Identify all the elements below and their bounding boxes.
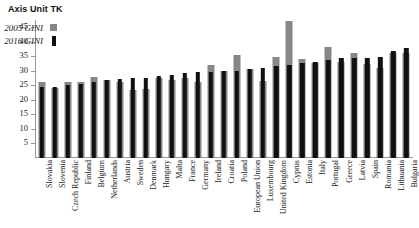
bar-2016 xyxy=(157,76,161,158)
bar-2016 xyxy=(131,78,135,158)
bar-group xyxy=(178,20,191,158)
x-axis-label: Croatia xyxy=(227,160,236,184)
bar-group xyxy=(204,20,217,158)
x-axis-label: Slovakia xyxy=(45,160,54,188)
x-axis-label: Latvia xyxy=(358,160,367,180)
x-axis-label: Sweden xyxy=(136,160,145,185)
bar-2016 xyxy=(196,72,200,158)
x-axis-label: European Union xyxy=(253,160,262,213)
bar-group xyxy=(387,20,400,158)
y-tick-label: 15 xyxy=(20,108,29,118)
bar-group xyxy=(74,20,87,158)
bar-2016 xyxy=(300,63,304,158)
x-axis-label: Hungary xyxy=(162,160,171,188)
bar-2016 xyxy=(65,85,69,158)
bar-group xyxy=(126,20,139,158)
bar-2016 xyxy=(209,72,213,158)
bar-2016 xyxy=(391,51,395,158)
x-axis-label: Ireland xyxy=(214,160,223,183)
bar-group xyxy=(113,20,126,158)
bar-2016 xyxy=(183,73,187,158)
bar-group xyxy=(244,20,257,158)
x-axis-label: Austria xyxy=(123,160,132,184)
bar-2016 xyxy=(326,60,330,158)
bar-2016 xyxy=(248,69,252,158)
bar-group xyxy=(309,20,322,158)
bar-group xyxy=(322,20,335,158)
bar-2016 xyxy=(118,79,122,158)
x-axis-label: Czech Republic xyxy=(71,160,80,211)
bar-group xyxy=(283,20,296,158)
x-axis-label: Italy xyxy=(318,160,327,175)
bar-group xyxy=(61,20,74,158)
bar-group xyxy=(400,20,413,158)
y-tick-label: 35 xyxy=(20,50,29,60)
y-tick-label: 5 xyxy=(24,137,28,147)
bar-group xyxy=(348,20,361,158)
plot-area xyxy=(35,20,413,158)
bar-group xyxy=(152,20,165,158)
bar-group xyxy=(191,20,204,158)
bar-group xyxy=(270,20,283,158)
chart-title: Axis Unit TK xyxy=(8,4,63,14)
x-axis-label: Denmark xyxy=(149,160,158,190)
bar-2016 xyxy=(144,78,148,158)
bar-group xyxy=(257,20,270,158)
x-axis-label: Germany xyxy=(201,160,210,190)
legend-swatch-2005-icon xyxy=(50,24,57,31)
bar-2016 xyxy=(378,57,382,158)
x-axis-label: Luxembourg xyxy=(266,160,275,201)
y-tick-label: 30 xyxy=(20,65,29,75)
y-tick-label: 25 xyxy=(20,79,29,89)
bar-group xyxy=(361,20,374,158)
bar-group xyxy=(217,20,230,158)
x-axis-label: Malta xyxy=(175,160,184,179)
y-tick-label: 10 xyxy=(20,123,29,133)
legend-swatch-2016-icon xyxy=(52,36,57,46)
bar-2016 xyxy=(261,68,265,158)
bar-2016 xyxy=(91,82,95,158)
x-axis-label: Poland xyxy=(240,160,249,182)
bar-group xyxy=(100,20,113,158)
bar-2016 xyxy=(339,58,343,158)
bar-2016 xyxy=(313,62,317,158)
bar-2016 xyxy=(39,87,43,158)
bar-2016 xyxy=(404,48,408,158)
x-axis-label: Bulgaria xyxy=(410,160,419,188)
x-axis-label: Belgium xyxy=(97,160,106,188)
bar-group xyxy=(87,20,100,158)
bar-group xyxy=(374,20,387,158)
x-axis-label: United Kingdom xyxy=(279,160,288,214)
bar-2016 xyxy=(352,58,356,158)
x-axis-label: Lithuania xyxy=(397,160,406,191)
bar-group xyxy=(231,20,244,158)
legend-label-2005: 2005 GINI xyxy=(4,23,43,33)
bar-group xyxy=(165,20,178,158)
x-axis-label: Greece xyxy=(345,160,354,183)
bar-group xyxy=(335,20,348,158)
x-axis-label: Romania xyxy=(384,160,393,189)
bar-2016 xyxy=(365,58,369,158)
x-axis-label: Estonia xyxy=(305,160,314,184)
x-axis-label: Netherlands xyxy=(110,160,119,199)
x-axis-label: Portugal xyxy=(331,160,340,187)
bar-2016 xyxy=(222,71,226,158)
bar-2016 xyxy=(104,80,108,158)
bar-2016 xyxy=(170,75,174,158)
bar-2016 xyxy=(287,65,291,158)
legend-label-2016: 2016 GINI xyxy=(4,36,43,46)
bar-2016 xyxy=(78,84,82,158)
bar-group xyxy=(296,20,309,158)
x-axis-label: Spain xyxy=(371,160,380,178)
bar-2016 xyxy=(52,87,56,158)
y-tick-label: 20 xyxy=(20,94,29,104)
x-axis-label: Slovenia xyxy=(58,160,67,188)
x-axis-label: France xyxy=(188,160,197,182)
bar-2016 xyxy=(274,66,278,158)
bar-2016 xyxy=(235,71,239,158)
x-axis-label: Cyprus xyxy=(292,160,301,183)
x-axis-label: Finland xyxy=(84,160,93,184)
bar-group xyxy=(139,20,152,158)
